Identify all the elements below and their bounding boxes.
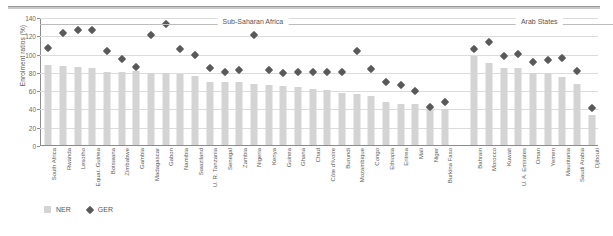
bar-ner <box>368 96 375 145</box>
ger-swatch <box>86 205 94 213</box>
data-column <box>144 18 159 145</box>
data-column <box>232 18 247 145</box>
data-column <box>570 18 585 145</box>
marker-ger <box>499 52 507 60</box>
marker-ger <box>250 31 258 39</box>
bar-ner <box>221 82 228 145</box>
x-tick-label: Rwanda <box>66 148 72 170</box>
data-column <box>41 18 56 145</box>
x-tick-label: Madagascar <box>154 148 160 181</box>
x-tick-label: Kuwait <box>506 148 512 166</box>
y-tick-mark <box>37 36 40 37</box>
x-tick-label: Bahrain <box>477 148 483 169</box>
bar-ner <box>515 68 522 145</box>
y-tick-mark <box>37 128 40 129</box>
marker-ger <box>264 66 272 74</box>
y-tick-mark <box>37 91 40 92</box>
data-column <box>364 18 379 145</box>
marker-ger <box>176 45 184 53</box>
chart-legend: NERGER <box>44 206 113 213</box>
x-tick-label: Gabon <box>168 148 174 166</box>
data-column <box>511 18 526 145</box>
marker-ger <box>441 98 449 106</box>
bar-ner <box>324 90 331 145</box>
data-column <box>203 18 218 145</box>
y-tick-label: 40 <box>6 106 36 113</box>
bar-ner <box>74 67 81 145</box>
x-tick-label: Equat. Guinea <box>95 148 101 186</box>
region-label: Sub-Saharan Africa <box>218 18 289 25</box>
marker-ger <box>485 37 493 45</box>
marker-ger <box>323 68 331 76</box>
x-tick-label: Kenya <box>271 148 277 165</box>
bar-ner <box>471 56 478 145</box>
bar-ner <box>397 104 404 145</box>
x-tick-label: Ghana <box>300 148 306 166</box>
data-column <box>188 18 203 145</box>
marker-ger <box>587 104 595 112</box>
bar-ner <box>236 82 243 145</box>
y-tick-label: 20 <box>6 124 36 131</box>
x-tick-label: Botswana <box>110 148 116 174</box>
x-tick-label: Mauritania <box>565 148 571 176</box>
x-tick-label: Saudi Arabia <box>579 148 585 182</box>
bar-ner <box>412 104 419 145</box>
x-tick-label: Mali <box>418 148 424 159</box>
region-bracket: Arab States <box>466 18 613 30</box>
x-tick-label: Lesotho <box>80 148 86 169</box>
x-tick-label: Gambia <box>139 148 145 169</box>
bar-ner <box>500 68 507 145</box>
x-tick-label: Congo <box>374 148 380 166</box>
y-tick-mark <box>37 109 40 110</box>
marker-ger <box>59 29 67 37</box>
marker-ger <box>220 68 228 76</box>
x-tick-label: Swaziland <box>198 148 204 175</box>
marker-ger <box>279 69 287 77</box>
bar-ner <box>89 68 96 145</box>
legend-item: NER <box>44 206 71 213</box>
bar-ner <box>383 102 390 145</box>
y-tick-label: 0 <box>6 143 36 150</box>
data-column <box>217 18 232 145</box>
x-tick-label: Eritrea <box>403 148 409 166</box>
data-column <box>247 18 262 145</box>
legend-label: NER <box>56 206 71 213</box>
bar-ner <box>588 115 595 145</box>
data-column <box>56 18 71 145</box>
region-bracket: Sub-Saharan Africa <box>40 18 466 30</box>
marker-ger <box>573 67 581 75</box>
data-column <box>467 18 482 145</box>
x-tick-label: Burundi <box>345 148 351 169</box>
marker-ger <box>396 80 404 88</box>
bar-ner <box>192 76 199 145</box>
data-column <box>437 18 452 145</box>
marker-ger <box>191 51 199 59</box>
bar-ner <box>177 74 184 145</box>
marker-ger <box>543 56 551 64</box>
bar-ner <box>529 73 536 145</box>
bar-ner <box>45 65 52 145</box>
marker-ger <box>514 49 522 57</box>
plot-area: 020406080100120140 Sub-Saharan AfricaAra… <box>40 18 598 146</box>
marker-ger <box>147 31 155 39</box>
bar-ner <box>104 72 111 145</box>
x-tick-label: Burkina Faso <box>447 148 453 183</box>
bar-ner <box>441 109 448 145</box>
x-tick-label: Oman <box>535 148 541 164</box>
bar-ner <box>148 73 155 145</box>
x-tick-label: Namibia <box>183 148 189 170</box>
marker-ger <box>44 44 52 52</box>
x-tick-label: Morocco <box>491 148 497 171</box>
x-tick-label: Niger <box>433 148 439 162</box>
bar-ner <box>309 89 316 145</box>
y-tick-mark <box>37 73 40 74</box>
data-column <box>452 18 467 145</box>
marker-ger <box>470 45 478 53</box>
data-column <box>540 18 555 145</box>
bar-ner <box>573 84 580 145</box>
x-tick-label: Chad <box>315 148 321 162</box>
x-tick-label: Yemen <box>550 148 556 166</box>
x-tick-label: Nigeria <box>256 148 262 167</box>
bar-ner <box>280 86 287 145</box>
marker-ger <box>338 68 346 76</box>
